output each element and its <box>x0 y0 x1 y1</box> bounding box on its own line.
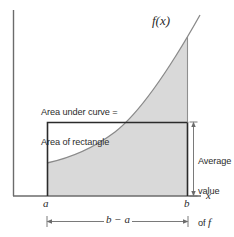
average-label-line-1: Average <box>198 157 231 167</box>
annotation-line-1: Area under curve = <box>41 108 118 118</box>
x-tick-label-a: a <box>43 198 49 210</box>
annotation-line-2: Area of rectangle <box>41 138 118 148</box>
width-dimension-label: b − a <box>104 214 132 226</box>
average-label-of-text: of <box>198 218 208 228</box>
average-label-line-2: value <box>198 187 231 197</box>
average-value-figure: f(x) Area under curve = Area of rectangl… <box>0 0 234 237</box>
x-axis-label: x <box>206 190 211 202</box>
area-equality-annotation: Area under curve = Area of rectangle <box>41 88 118 168</box>
curve-label-fx: f(x) <box>152 14 170 28</box>
x-tick-label-b: b <box>184 198 190 210</box>
average-label-line-3: of f <box>198 217 231 229</box>
average-value-label: Average value of f <box>198 137 231 237</box>
function-symbol-f: f <box>208 216 211 228</box>
